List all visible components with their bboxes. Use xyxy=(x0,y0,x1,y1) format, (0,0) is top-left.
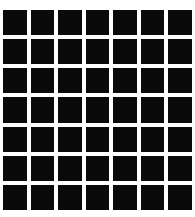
grid-square xyxy=(86,68,110,93)
grid-square xyxy=(141,39,165,64)
grid-square xyxy=(3,185,27,210)
grid-square xyxy=(113,97,137,122)
grid-square xyxy=(58,127,82,152)
grid-square xyxy=(168,39,192,64)
grid-square xyxy=(31,68,55,93)
grid-square xyxy=(141,10,165,35)
grid-square xyxy=(31,10,55,35)
grid-square xyxy=(3,127,27,152)
grid-square xyxy=(113,68,137,93)
grid-square xyxy=(58,185,82,210)
grid-square xyxy=(168,68,192,93)
grid-square xyxy=(86,185,110,210)
grid-square xyxy=(3,10,27,35)
grid-square xyxy=(58,68,82,93)
grid-square xyxy=(141,185,165,210)
grid-square xyxy=(31,97,55,122)
grid-square xyxy=(113,156,137,181)
grid-square xyxy=(141,68,165,93)
grid-square xyxy=(168,10,192,35)
grid-square xyxy=(86,97,110,122)
grid-square xyxy=(113,127,137,152)
grid-square xyxy=(58,97,82,122)
grid-square xyxy=(3,156,27,181)
grid-square xyxy=(86,39,110,64)
grid-square xyxy=(113,10,137,35)
grid-square xyxy=(31,185,55,210)
grid-square xyxy=(3,68,27,93)
grid-square xyxy=(58,10,82,35)
grid-square xyxy=(168,127,192,152)
grid-square xyxy=(31,39,55,64)
grid-square xyxy=(141,156,165,181)
grid-square xyxy=(113,39,137,64)
grid-square xyxy=(31,127,55,152)
grid-square xyxy=(58,39,82,64)
grid-square xyxy=(141,127,165,152)
grid-square xyxy=(58,156,82,181)
grid-square xyxy=(3,97,27,122)
grid-square xyxy=(141,97,165,122)
grid-square xyxy=(3,39,27,64)
grid-square xyxy=(113,185,137,210)
black-squares-grid xyxy=(3,10,192,210)
grid-square xyxy=(31,156,55,181)
grid-square xyxy=(168,156,192,181)
grid-square xyxy=(86,10,110,35)
grid-square xyxy=(86,156,110,181)
grid-square xyxy=(86,127,110,152)
grid-square xyxy=(168,97,192,122)
grid-square xyxy=(168,185,192,210)
